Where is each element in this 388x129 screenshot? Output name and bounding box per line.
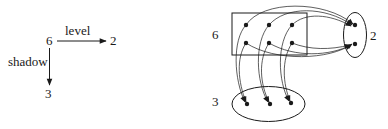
point — [353, 42, 357, 46]
point — [244, 23, 248, 27]
node-3-label: 3 — [45, 86, 52, 101]
set-2-label: 2 — [370, 28, 377, 43]
left-diagram: 6 2 3 level shadow — [8, 23, 117, 101]
point — [353, 23, 357, 27]
shadow-edge-label: shadow — [8, 54, 48, 69]
node-2-label: 2 — [110, 33, 117, 48]
point — [267, 23, 271, 27]
point — [245, 102, 249, 106]
point — [290, 23, 294, 27]
set-6-label: 6 — [212, 27, 219, 42]
right-diagram: 6 2 3 — [212, 6, 377, 121]
set-2-points — [353, 23, 357, 46]
point — [290, 41, 294, 45]
node-6-label: 6 — [46, 33, 53, 48]
point — [268, 102, 272, 106]
point — [244, 41, 248, 45]
point — [267, 41, 271, 45]
level-mapping-curves — [246, 6, 353, 57]
level-edge-label: level — [65, 23, 91, 38]
set-3-label: 3 — [212, 94, 219, 109]
point — [289, 101, 293, 105]
set-6-points — [244, 23, 294, 45]
diagram-canvas: 6 2 3 level shadow 6 2 3 — [0, 0, 388, 129]
